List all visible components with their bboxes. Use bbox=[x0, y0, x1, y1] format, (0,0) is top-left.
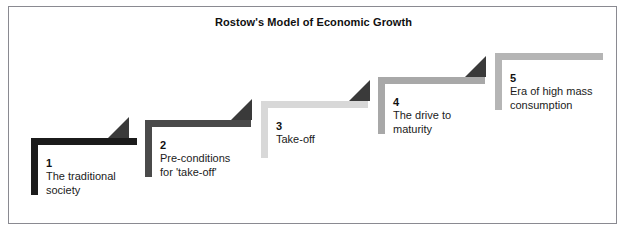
stage-4-vertical-bar bbox=[378, 77, 385, 134]
stage-4: 4The drive to maturity bbox=[378, 77, 485, 134]
stage-3-vertical-bar bbox=[261, 101, 268, 158]
stage-2-label: 2Pre-conditions for 'take-off' bbox=[160, 138, 230, 179]
stage-5-vertical-bar bbox=[495, 53, 502, 110]
stage-3-label: 3Take-off bbox=[276, 119, 315, 147]
stage-2-vertical-bar bbox=[145, 120, 152, 177]
stage-2-text: Pre-conditions for 'take-off' bbox=[160, 152, 230, 179]
stage-4-number: 4 bbox=[393, 95, 451, 109]
stage-3-number: 3 bbox=[276, 119, 315, 133]
stage-5-text: Era of high mass consumption bbox=[510, 85, 593, 112]
stage-1: 1The traditional society bbox=[31, 138, 137, 195]
stage-5-number: 5 bbox=[510, 71, 593, 85]
stage-1-text: The traditional society bbox=[46, 170, 116, 197]
stage-1-horizontal-bar bbox=[31, 138, 137, 145]
stage-2: 2Pre-conditions for 'take-off' bbox=[145, 120, 251, 177]
stage-1-label: 1The traditional society bbox=[46, 156, 116, 197]
stage-2-horizontal-bar bbox=[145, 120, 251, 127]
stage-1-vertical-bar bbox=[31, 138, 38, 195]
stage-4-text: The drive to maturity bbox=[393, 109, 451, 136]
stage-3: 3Take-off bbox=[261, 101, 368, 158]
stage-3-horizontal-bar bbox=[261, 101, 368, 108]
stage-3-growth-arrow-icon bbox=[349, 80, 370, 101]
stage-3-text: Take-off bbox=[276, 133, 315, 147]
stage-5: 5Era of high mass consumption bbox=[495, 53, 603, 110]
page-title: Rostow's Model of Economic Growth bbox=[0, 16, 627, 28]
stage-5-label: 5Era of high mass consumption bbox=[510, 71, 593, 112]
stage-5-horizontal-bar bbox=[495, 53, 603, 60]
stage-4-growth-arrow-icon bbox=[465, 56, 486, 77]
stage-1-growth-arrow-icon bbox=[108, 117, 129, 138]
stage-1-number: 1 bbox=[46, 156, 116, 170]
diagram-canvas: Rostow's Model of Economic Growth 1The t… bbox=[0, 0, 627, 233]
stage-4-horizontal-bar bbox=[378, 77, 485, 84]
stage-2-number: 2 bbox=[160, 138, 230, 152]
stage-4-label: 4The drive to maturity bbox=[393, 95, 451, 136]
stage-2-growth-arrow-icon bbox=[231, 99, 252, 120]
